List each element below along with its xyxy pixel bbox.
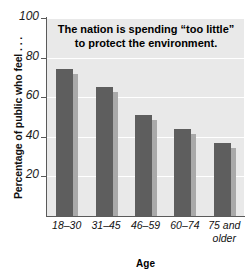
bar[interactable] (174, 129, 191, 216)
bar-shadow (73, 74, 78, 216)
bar[interactable] (96, 87, 113, 216)
bar[interactable] (135, 115, 152, 216)
y-tick-label-60: 60 (0, 88, 39, 102)
x-axis-title: Age (47, 258, 244, 269)
y-tick-label-100: 100 (0, 9, 39, 23)
chart-title: The nation is spending “too little” to p… (52, 22, 240, 50)
y-tick-60 (41, 97, 47, 98)
bar-shadow (152, 120, 157, 216)
y-axis-title: Percentage of public who feel . . . (12, 13, 24, 223)
chart-title-line-1: The nation is spending “too little” (58, 23, 235, 35)
y-tick-label-20: 20 (0, 167, 39, 181)
bar[interactable] (214, 143, 231, 216)
y-tick-label-80: 80 (0, 49, 39, 63)
x-axis-line (46, 216, 245, 217)
x-tick-label-line-2: older (195, 232, 251, 245)
chart-title-line-2: to protect the environment. (52, 36, 240, 50)
bar-shadow (231, 148, 236, 216)
bar-shadow (191, 134, 196, 216)
x-tick-label: 75 andolder (195, 219, 251, 244)
y-tick-20 (41, 176, 47, 177)
x-tick-label-line-1: 75 and (208, 219, 240, 231)
bar-shadow (113, 92, 118, 216)
gridline-80 (47, 58, 244, 59)
y-tick-80 (41, 58, 47, 59)
y-tick-label-40: 40 (0, 128, 39, 142)
y-tick-40 (41, 137, 47, 138)
bar[interactable] (56, 69, 73, 216)
y-tick-100 (41, 18, 47, 19)
bar-chart-figure: Percentage of public who feel . . . 2040… (0, 0, 251, 278)
gridline-100 (47, 18, 244, 19)
